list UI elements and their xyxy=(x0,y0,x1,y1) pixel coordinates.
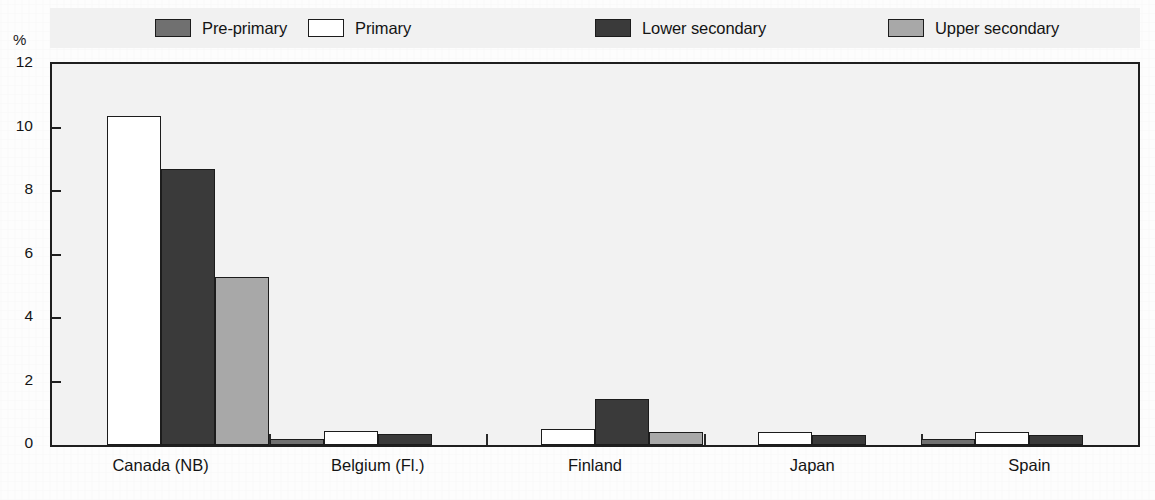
x-axis-label: Spain xyxy=(921,456,1138,475)
legend-label: Pre-primary xyxy=(202,19,287,38)
bar-group xyxy=(269,64,486,445)
bar-primary xyxy=(541,429,595,445)
legend-label: Upper secondary xyxy=(935,19,1059,38)
legend-swatch-icon xyxy=(308,19,344,37)
bar-group xyxy=(921,64,1138,445)
legend-swatch-icon xyxy=(595,19,631,37)
chart-legend: Pre-primaryPrimaryLower secondaryUpper s… xyxy=(50,8,1140,48)
bar-upper-secondary xyxy=(215,277,269,445)
bar-lower-secondary xyxy=(161,169,215,445)
y-axis-tick-label: 4 xyxy=(0,307,33,325)
bar-primary xyxy=(324,431,378,445)
x-axis-label: Belgium (Fl.) xyxy=(269,456,486,475)
plot-area: 024681012 xyxy=(50,62,1140,447)
legend-label: Lower secondary xyxy=(642,19,766,38)
chart-figure: Pre-primaryPrimaryLower secondaryUpper s… xyxy=(0,0,1155,500)
legend-label: Primary xyxy=(355,19,411,38)
bar-primary xyxy=(758,432,812,445)
bar-group xyxy=(704,64,921,445)
y-axis-tick-label: 6 xyxy=(0,244,33,262)
bar-group-bars xyxy=(921,64,1138,445)
bar-lower-secondary xyxy=(595,399,649,445)
bar-pre-primary xyxy=(921,439,975,445)
bar-group-bars xyxy=(486,64,703,445)
bar-pre-primary xyxy=(270,439,324,445)
legend-item-primary: Primary xyxy=(308,19,411,38)
bar-group xyxy=(486,64,703,445)
bar-primary xyxy=(975,432,1029,445)
x-axis-label: Canada (NB) xyxy=(52,456,269,475)
bar-group-bars xyxy=(52,64,269,445)
bar-upper-secondary xyxy=(649,432,703,445)
y-axis-unit-label: % xyxy=(13,31,26,48)
bar-lower-secondary xyxy=(812,435,866,445)
y-axis-tick-label: 2 xyxy=(0,371,33,389)
bar-group xyxy=(52,64,269,445)
y-axis-tick-label: 10 xyxy=(0,117,33,135)
bar-lower-secondary xyxy=(378,434,432,445)
bar-group-bars xyxy=(269,64,486,445)
legend-item-pre-primary: Pre-primary xyxy=(155,19,287,38)
bar-primary xyxy=(107,116,161,445)
x-axis-label: Japan xyxy=(704,456,921,475)
y-axis-tick-label: 0 xyxy=(0,434,33,452)
x-axis-label: Finland xyxy=(486,456,703,475)
legend-item-upper-secondary: Upper secondary xyxy=(888,19,1059,38)
plot-inner: 024681012 xyxy=(52,64,1138,445)
y-axis-tick-label: 12 xyxy=(0,53,33,71)
legend-item-lower-secondary: Lower secondary xyxy=(595,19,766,38)
y-axis-tick-label: 8 xyxy=(0,180,33,198)
legend-swatch-icon xyxy=(155,19,191,37)
bar-lower-secondary xyxy=(1029,435,1083,445)
legend-swatch-icon xyxy=(888,19,924,37)
bar-group-bars xyxy=(704,64,921,445)
